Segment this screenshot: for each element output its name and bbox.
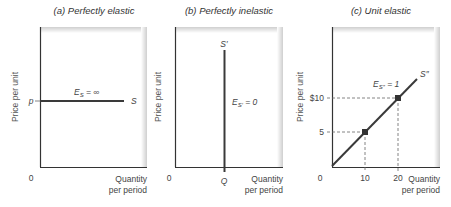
y-axis-label: Price per unit <box>153 71 163 122</box>
elasticity-label: ES″ = 1 <box>373 79 399 90</box>
origin-label: 0 <box>167 173 172 183</box>
data-point-10-5 <box>362 129 368 135</box>
y-tick-10: $10 <box>310 93 324 103</box>
panel-perfectly-elastic: (a) Perfectly elastic Price per unit p S… <box>10 5 148 195</box>
frame-top-shade <box>41 27 147 33</box>
panel-perfectly-inelastic: (b) Perfectly inelastic Price per unit S… <box>153 5 284 195</box>
frame-top-shade <box>176 27 283 33</box>
y-axis-label: Price per unit <box>10 71 20 122</box>
price-label: p <box>28 96 34 106</box>
origin-label: 0 <box>29 173 34 183</box>
frame-right-shade <box>141 27 147 167</box>
y-axis-label: Price per unit <box>295 71 305 122</box>
x-axis-label-line1: Quantity <box>251 174 283 184</box>
x-axis-label-line2: per period <box>245 185 284 195</box>
curve-label: S″ <box>420 69 430 79</box>
x-axis-label-line2: per period <box>109 185 148 195</box>
quantity-label: Q <box>221 176 228 186</box>
panel-unit-elastic: (c) Unit elastic Price per unit S″ ES″ =… <box>295 5 441 195</box>
supply-curve-diagonal <box>332 79 417 166</box>
elasticity-label: ES = ∞ <box>74 87 99 98</box>
x-axis-label-line1: Quantity <box>408 174 440 184</box>
frame-right-shade <box>434 27 440 167</box>
frame-right-shade <box>277 27 283 167</box>
panel-a-title: (a) Perfectly elastic <box>54 5 135 16</box>
curve-label: S′ <box>220 39 228 49</box>
panel-c-title: (c) Unit elastic <box>351 5 411 16</box>
x-tick-20: 20 <box>393 173 403 183</box>
x-axis-label-line1: Quantity <box>115 174 147 184</box>
x-axis-label-line2: per period <box>402 185 441 195</box>
origin-label: 0 <box>318 173 323 183</box>
x-tick-10: 10 <box>360 173 370 183</box>
panel-b-title: (b) Perfectly inelastic <box>185 5 273 16</box>
curve-label: S <box>131 96 137 106</box>
elasticity-label: ES′ = 0 <box>232 97 257 108</box>
data-point-20-10 <box>395 95 401 101</box>
y-tick-5: 5 <box>319 127 324 137</box>
frame-top-shade <box>333 27 440 33</box>
supply-elasticity-diagram: (a) Perfectly elastic Price per unit p S… <box>0 0 451 207</box>
